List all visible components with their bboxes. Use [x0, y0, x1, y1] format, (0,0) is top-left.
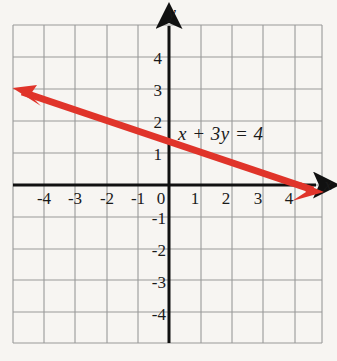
origin-label: 0 — [157, 189, 166, 208]
x-tick-label: -3 — [68, 189, 82, 208]
y-tick-label: -2 — [152, 241, 166, 260]
x-tick-label: 2 — [222, 189, 231, 208]
x-tick-label: 4 — [285, 189, 294, 208]
y-tick-label: 2 — [154, 113, 163, 132]
y-tick-label: 4 — [154, 49, 163, 68]
y-tick-label: -3 — [152, 273, 166, 292]
y-tick-label: -1 — [152, 209, 166, 228]
x-tick-label: 3 — [254, 189, 263, 208]
y-tick-label: 1 — [154, 145, 163, 164]
y-tick-label: -4 — [152, 305, 167, 324]
equation-annotation: x + 3y = 4 — [177, 123, 264, 144]
x-axis-label: x — [323, 175, 332, 194]
x-tick-label: -1 — [131, 189, 145, 208]
coordinate-plane-graph: -4 -3 -2 -1 0 1 2 3 4 4 3 2 1 -1 -2 -3 -… — [0, 0, 337, 361]
x-tick-label: 1 — [191, 189, 200, 208]
x-tick-label: -4 — [37, 189, 52, 208]
y-axis-label: y — [166, 3, 176, 22]
x-tick-label: -2 — [100, 189, 114, 208]
graph-canvas: -4 -3 -2 -1 0 1 2 3 4 4 3 2 1 -1 -2 -3 -… — [0, 0, 337, 361]
y-tick-label: 3 — [154, 81, 163, 100]
